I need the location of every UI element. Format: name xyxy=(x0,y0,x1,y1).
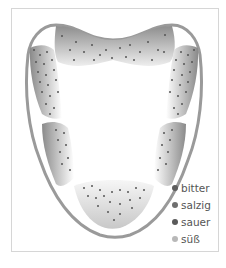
zone-bitter xyxy=(55,26,175,66)
legend-label: salzig xyxy=(181,199,211,211)
legend-dot-icon xyxy=(172,202,178,208)
legend-item-salzig: salzig xyxy=(172,196,211,213)
legend-item-bitter: bitter xyxy=(172,179,211,196)
legend-label: süß xyxy=(181,233,200,245)
legend: bitter salzig sauer süß xyxy=(172,179,211,247)
legend-label: sauer xyxy=(181,216,210,228)
legend-dot-icon xyxy=(172,185,178,191)
legend-item-suess: süß xyxy=(172,230,211,247)
legend-item-sauer: sauer xyxy=(172,213,211,230)
legend-dot-icon xyxy=(172,219,178,225)
zone-suess xyxy=(74,180,154,229)
legend-dot-icon xyxy=(172,236,178,242)
legend-label: bitter xyxy=(181,182,210,194)
